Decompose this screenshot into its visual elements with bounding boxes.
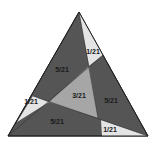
region-label-right: 5/21	[104, 97, 118, 104]
region-label-inner: 3/21	[72, 92, 86, 99]
outer-triangle	[8, 12, 148, 136]
region-label-left-corner: 1/21	[24, 98, 38, 105]
region-label-upper-left: 5/21	[55, 66, 69, 73]
routh-triangle-diagram: 5/21 5/21 5/21 1/21 1/21 1/21 3/21	[0, 0, 157, 149]
region-label-bottom-right-corner: 1/21	[103, 126, 117, 133]
region-label-top-corner: 1/21	[86, 48, 100, 55]
region-label-bottom: 5/21	[50, 118, 64, 125]
